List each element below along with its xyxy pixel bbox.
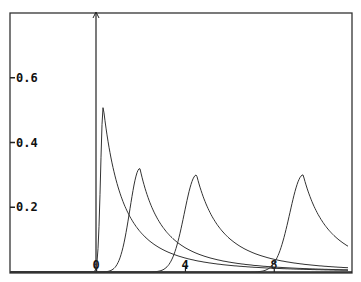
y-ticks: 0.20.40.6: [10, 71, 38, 215]
x-tick-label: 4: [181, 258, 188, 272]
curves: [11, 108, 348, 272]
y-tick-label: 0.4: [16, 136, 38, 150]
chart: 0.20.40.6 048: [0, 0, 361, 282]
y-tick-label: 0.6: [16, 71, 38, 85]
plot-frame: [10, 13, 352, 273]
series-curve-1: [11, 108, 348, 272]
y-tick-label: 0.2: [16, 200, 38, 214]
series-curve-4: [11, 175, 348, 272]
series-curve-3: [11, 175, 348, 272]
